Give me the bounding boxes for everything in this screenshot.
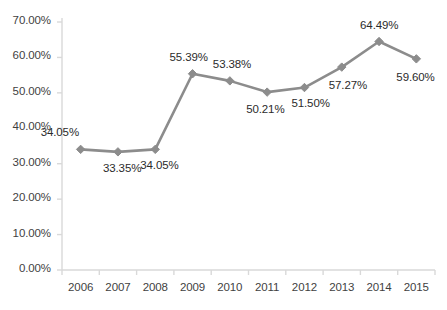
data-point-marker [226,77,234,85]
data-point-label: 59.60% [396,71,434,83]
data-point-label: 34.05% [41,126,79,138]
data-point-label: 34.05% [140,159,178,171]
x-axis-tick-label: 2008 [137,281,174,293]
data-point-marker [114,148,122,156]
data-point-marker [188,70,196,78]
x-axis-tick-label: 2014 [360,281,397,293]
x-axis-tick-label: 2006 [62,281,99,293]
data-point-label: 50.21% [246,103,284,115]
chart-plot-area [0,0,447,310]
data-point-marker [151,145,159,153]
y-axis-tick-label: 20.00% [0,191,51,203]
x-axis-tick-label: 2012 [286,281,323,293]
y-axis-tick-label: 70.00% [0,14,51,26]
x-axis-tick-label: 2010 [211,281,248,293]
data-point-label: 33.35% [103,162,141,174]
data-point-label: 64.49% [360,19,398,31]
data-point-label: 51.50% [291,97,329,109]
x-axis-tick-label: 2007 [99,281,136,293]
data-point-marker [76,145,84,153]
y-axis-tick-label: 0.00% [0,262,51,274]
x-axis-tick-label: 2015 [398,281,435,293]
x-axis-tick-label: 2009 [174,281,211,293]
y-axis-tick-label: 60.00% [0,49,51,61]
y-axis-tick-label: 50.00% [0,85,51,97]
x-axis-tick-label: 2013 [323,281,360,293]
data-point-label: 57.27% [329,79,367,91]
y-axis-tick-label: 30.00% [0,156,51,168]
line-chart: 0.00%10.00%20.00%30.00%40.00%50.00%60.00… [0,0,447,310]
data-point-marker [412,55,420,63]
data-point-label: 53.38% [213,58,251,70]
data-point-marker [263,88,271,96]
y-axis-tick-label: 10.00% [0,227,51,239]
x-axis-tick-label: 2011 [249,281,286,293]
data-point-label: 55.39% [170,51,208,63]
